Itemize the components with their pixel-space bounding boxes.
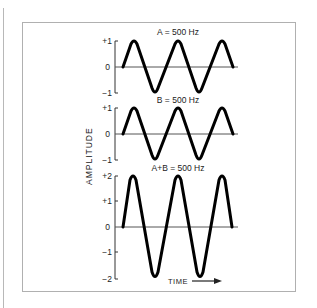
- panel-sum-tick: +2: [102, 171, 112, 181]
- panel-b-tick: 0: [105, 129, 110, 139]
- panel-sum: A+B = 500 Hz +2 +1 0 −1 −2: [102, 163, 238, 284]
- y-axis-label: AMPLITUDE: [84, 127, 94, 185]
- panel-a: A = 500 Hz +1 0 −1: [102, 27, 238, 98]
- panel-b: B = 500 Hz +1 0 −1: [102, 95, 238, 165]
- panel-sum-tick: +1: [102, 196, 112, 206]
- panel-sum-tick: 0: [105, 222, 110, 232]
- time-arrow-icon: [192, 278, 222, 284]
- x-axis-label: TIME: [168, 277, 188, 286]
- panel-sum-title: A+B = 500 Hz: [152, 163, 205, 173]
- panel-b-title: B = 500 Hz: [157, 95, 199, 105]
- panel-sum-tick: −1: [102, 247, 112, 257]
- panel-a-tick: +1: [102, 36, 112, 46]
- panel-sum-waveform: [123, 176, 232, 277]
- panel-a-title: A = 500 Hz: [157, 27, 199, 37]
- waveform-figure: AMPLITUDE A = 500 Hz +1 0 −1 B = 500 Hz …: [0, 0, 317, 308]
- panel-sum-tick: −2: [102, 274, 112, 284]
- panel-b-tick: −1: [102, 155, 112, 165]
- panel-a-tick: −1: [102, 88, 112, 98]
- panel-a-tick: 0: [105, 62, 110, 72]
- panel-b-tick: +1: [102, 103, 112, 113]
